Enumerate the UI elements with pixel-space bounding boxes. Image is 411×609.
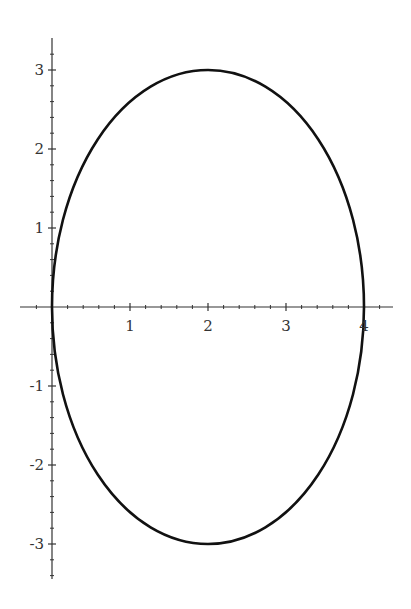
- y-tick-label-neg1: -1: [29, 377, 44, 395]
- x-tick-label-4: 4: [359, 317, 369, 335]
- x-tick-label-2: 2: [203, 317, 213, 335]
- y-tick-label-neg2: -2: [29, 456, 44, 474]
- plot-canvas: 1 2 3 4 3 2 1 -1 -2 -3: [0, 0, 411, 609]
- y-tick-label-3: 3: [34, 61, 44, 79]
- y-tick-label-neg3: -3: [29, 535, 44, 553]
- y-tick-label-2: 2: [34, 140, 44, 158]
- x-tick-label-1: 1: [125, 317, 135, 335]
- x-tick-label-3: 3: [281, 317, 291, 335]
- y-tick-label-1: 1: [34, 219, 44, 237]
